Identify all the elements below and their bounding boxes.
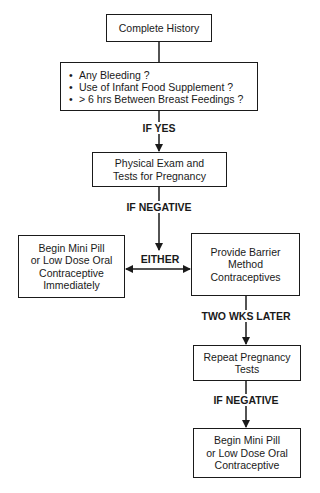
begin-mini-pill-immediately-box: Begin Mini Pill or Low Dose Oral Contrac…	[18, 235, 125, 298]
complete-history-box: Complete History	[106, 14, 212, 42]
if-negative-label-2: IF NEGATIVE	[211, 394, 280, 406]
repeat-pregnancy-tests-box: Repeat Pregnancy Tests	[193, 345, 301, 381]
barrier-method-box: Provide Barrier Method Contraceptives	[191, 233, 300, 296]
begin-mini-pill-immediately-text: Begin Mini Pill or Low Dose Oral Contrac…	[31, 242, 113, 292]
if-yes-label: IF YES	[140, 122, 177, 134]
repeat-pregnancy-tests-text: Repeat Pregnancy Tests	[204, 351, 291, 376]
barrier-method-text: Provide Barrier Method Contraceptives	[210, 246, 280, 284]
screening-questions-box: Any Bleeding ? Use of Infant Food Supple…	[60, 62, 258, 111]
two-wks-later-label: TWO WKS LATER	[199, 310, 292, 322]
either-label: EITHER	[139, 253, 182, 265]
physical-exam-text: Physical Exam and Tests for Pregnancy	[113, 157, 206, 182]
question-bleeding: Any Bleeding ?	[69, 69, 243, 81]
begin-mini-pill-final-box: Begin Mini Pill or Low Dose Oral Contrac…	[193, 428, 301, 478]
question-infant-food: Use of Infant Food Supplement ?	[69, 81, 243, 93]
physical-exam-box: Physical Exam and Tests for Pregnancy	[92, 152, 227, 187]
complete-history-text: Complete History	[119, 22, 200, 35]
screening-questions-list: Any Bleeding ? Use of Infant Food Supple…	[69, 69, 243, 105]
begin-mini-pill-final-text: Begin Mini Pill or Low Dose Oral Contrac…	[206, 434, 288, 472]
if-negative-label-1: IF NEGATIVE	[124, 201, 193, 213]
question-feeding-interval: > 6 hrs Between Breast Feedings ?	[69, 93, 243, 105]
